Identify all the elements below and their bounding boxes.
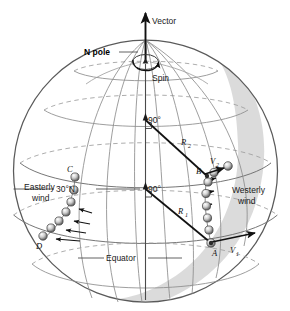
label-radius-r1-sub: 1: [185, 212, 188, 218]
spin-axis-group: [133, 13, 159, 300]
label-angle-upper: 90°: [148, 115, 161, 125]
label-westerly-wind-line2: wind: [237, 196, 256, 206]
parcel-sphere-e4: [62, 208, 70, 216]
globe-diagram-svg: Vector N pole Spin 90° 90° 30°N Equator …: [0, 0, 290, 311]
label-radius-r2: R: [180, 137, 187, 147]
parcel-sphere-w6: [204, 178, 212, 186]
coriolis-globe-figure: Vector N pole Spin 90° 90° 30°N Equator …: [0, 0, 290, 311]
parcel-sphere-e5: [55, 217, 63, 225]
parcel-sphere-w5: [202, 189, 210, 197]
east-arrow-3: [66, 230, 86, 233]
label-velocity-v1-sub: 1: [236, 251, 239, 257]
label-radius-r2-sub: 2: [188, 143, 191, 149]
east-arrow-4: [56, 239, 80, 241]
label-point-b: B: [196, 166, 201, 176]
label-westerly-wind-line1: Westerly: [232, 185, 266, 195]
label-easterly-wind-line1: Easterly: [24, 182, 55, 192]
parcel-sphere-w4: [202, 202, 210, 210]
parcel-sphere-e6: [47, 224, 55, 232]
label-vector: Vector: [152, 16, 176, 26]
label-easterly-wind-line2: wind: [31, 193, 50, 203]
label-spin: Spin: [152, 73, 169, 83]
label-point-d: D: [35, 241, 43, 251]
parcel-sphere-c: [71, 173, 79, 181]
parcel-sphere-e3: [67, 198, 75, 206]
label-point-a: A: [211, 248, 218, 258]
east-arrow-2: [74, 221, 90, 224]
parcel-sphere-w3: [203, 214, 211, 222]
point-a-marker: [209, 241, 213, 245]
parcel-sphere-w2: [205, 226, 213, 234]
label-velocity-v2-sub: 2: [216, 162, 219, 168]
label-point-c: C: [67, 164, 73, 174]
label-equator: Equator: [106, 253, 136, 263]
radius-lines: [143, 113, 211, 243]
radius-r1-line: [146, 189, 212, 243]
easterly-deflection-arrows: [56, 209, 92, 241]
parcel-sphere-w8: [224, 162, 233, 171]
meridian-3: [135, 40, 146, 302]
label-n-pole: N pole: [84, 47, 110, 57]
parcel-sphere-d: [39, 232, 47, 240]
label-latitude-30n: 30°N: [56, 184, 75, 194]
label-angle-lower: 90°: [148, 184, 161, 194]
east-arrow-1: [79, 209, 92, 213]
label-radius-r1: R: [177, 206, 184, 216]
